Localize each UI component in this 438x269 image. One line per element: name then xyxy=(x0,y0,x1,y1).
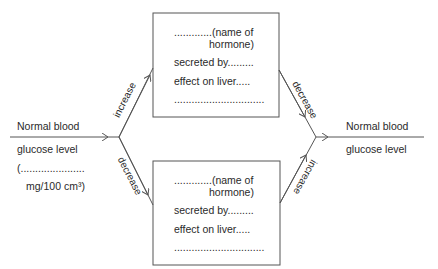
hormone-name-blank[interactable]: .............(name of xyxy=(174,175,253,186)
secreted-by-blank[interactable]: secreted by......... xyxy=(174,205,254,216)
hormone-name-label: hormone) xyxy=(209,187,254,198)
hormone-name-label: hormone) xyxy=(209,39,254,50)
left-state-line1: Normal blood xyxy=(17,121,79,132)
left-state-line2: glucose level xyxy=(17,144,78,155)
left-state-unit: mg/100 cm³) xyxy=(26,181,85,192)
right-state-line1: Normal blood xyxy=(346,121,408,132)
effect-on-liver-blank[interactable]: effect on liver..... xyxy=(174,224,250,235)
right-state-line2: glucose level xyxy=(346,144,407,155)
secreted-by-blank[interactable]: secreted by......... xyxy=(174,57,254,68)
effect-on-liver-blank[interactable]: effect on liver..... xyxy=(174,76,250,87)
answer-line-blank[interactable]: ............................... xyxy=(174,242,264,253)
left-state-value-blank[interactable]: (...................... xyxy=(17,163,85,174)
answer-line-blank[interactable]: ............................... xyxy=(174,94,264,105)
hormone-name-blank[interactable]: .............(name of xyxy=(174,27,253,38)
